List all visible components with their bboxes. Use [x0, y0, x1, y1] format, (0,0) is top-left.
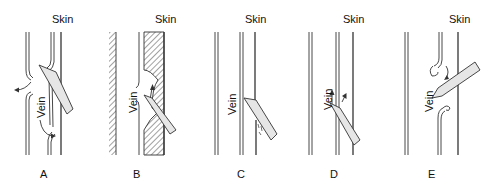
skin-label-d: Skin [343, 13, 364, 25]
skin-label-a: Skin [52, 13, 73, 25]
vein-label-d: Vein [322, 89, 334, 110]
panel-label-c: C [237, 168, 245, 180]
panel-label-d: D [330, 168, 338, 180]
panel-c: Skin Vein C [215, 13, 277, 180]
panel-d: Skin Vein D [309, 13, 364, 180]
panel-label-a: A [40, 168, 48, 180]
vein-label-e: Vein [423, 91, 435, 112]
vein-label-c: Vein [226, 94, 238, 115]
panel-e: Skin Vein E [405, 13, 480, 180]
vein-label-a: Vein [35, 97, 47, 118]
vein-label-b: Vein [127, 92, 139, 113]
panel-b: Skin Vein B [109, 13, 176, 180]
panel-a: Skin Vein A [14, 13, 73, 180]
venipuncture-diagram: Skin Vein A Skin Vein B Skin Vein [0, 0, 489, 190]
skin-label-e: Skin [449, 13, 470, 25]
skin-label-c: Skin [245, 13, 266, 25]
panel-label-e: E [428, 168, 435, 180]
panel-label-b: B [133, 168, 140, 180]
skin-label-b: Skin [155, 13, 176, 25]
